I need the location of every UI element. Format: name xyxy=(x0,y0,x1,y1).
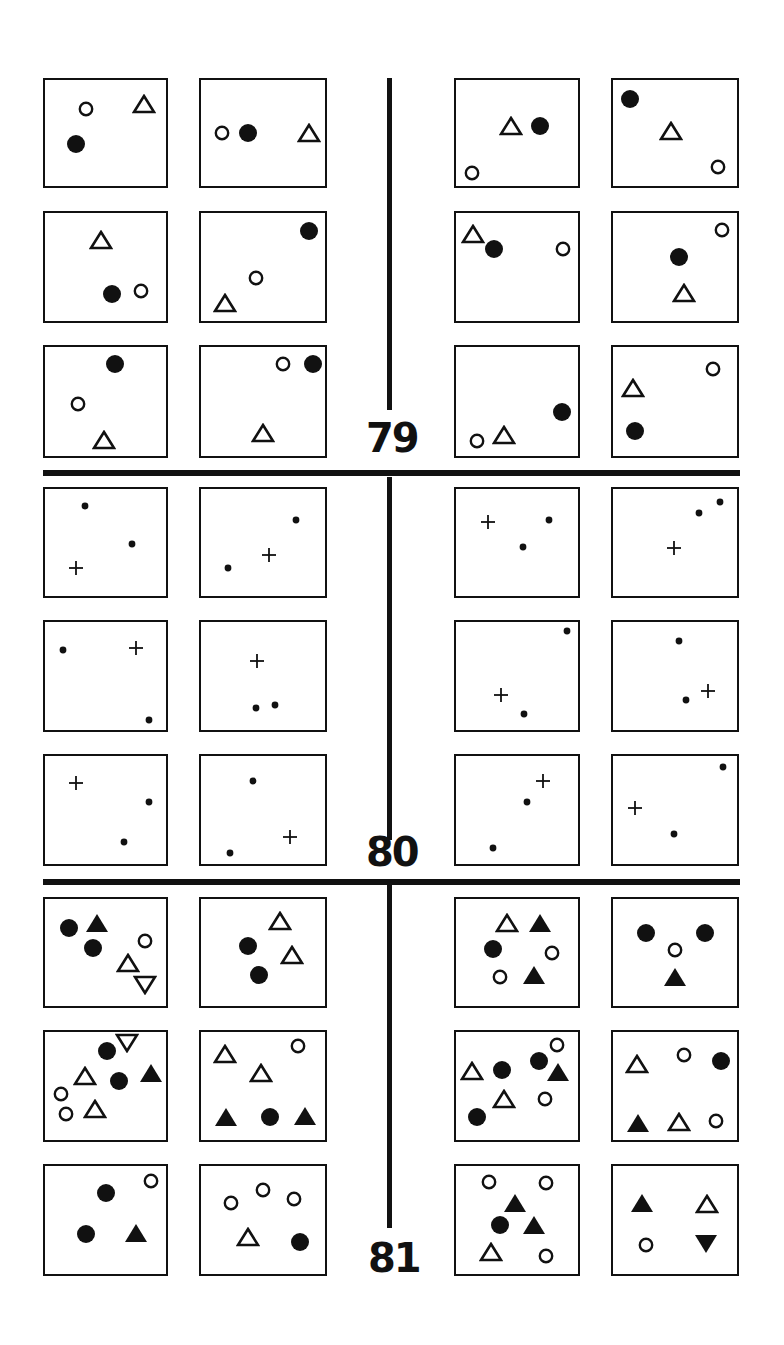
example-panel-right xyxy=(454,487,580,598)
open-circle-icon xyxy=(214,125,230,141)
dot-icon xyxy=(675,637,683,645)
open-circle-icon xyxy=(286,1191,302,1207)
example-panel-right xyxy=(611,620,739,732)
open-triangle-icon xyxy=(492,1089,516,1109)
filled-circle-icon xyxy=(96,1183,116,1203)
open-triangle-icon xyxy=(89,230,113,250)
plus-icon xyxy=(128,640,144,656)
open-circle-icon xyxy=(78,101,94,117)
plus-icon xyxy=(700,683,716,699)
open-circle-icon xyxy=(549,1037,565,1053)
open-triangle-icon xyxy=(479,1242,503,1262)
open-circle-icon xyxy=(248,270,264,286)
example-panel-left xyxy=(43,1164,168,1276)
plus-icon xyxy=(68,775,84,791)
dot-icon xyxy=(292,516,300,524)
problem-number: 81 xyxy=(368,1238,420,1278)
dot-icon xyxy=(682,696,690,704)
dot-icon xyxy=(249,777,257,785)
example-panel-left xyxy=(199,345,327,458)
open-triangle-icon xyxy=(461,224,485,244)
example-panel-right xyxy=(611,897,739,1008)
filled-triangle-icon xyxy=(293,1106,317,1126)
plus-icon xyxy=(282,829,298,845)
example-panel-right xyxy=(454,345,580,458)
plus-icon xyxy=(249,653,265,669)
filled-inverted-triangle-icon xyxy=(694,1234,718,1254)
open-circle-icon xyxy=(133,283,149,299)
filled-circle-icon xyxy=(102,284,122,304)
open-circle-icon xyxy=(555,241,571,257)
example-panel-left xyxy=(199,897,327,1008)
filled-circle-icon xyxy=(238,123,258,143)
open-circle-icon xyxy=(710,159,726,175)
open-circle-icon xyxy=(492,969,508,985)
open-circle-icon xyxy=(53,1086,69,1102)
open-triangle-icon xyxy=(659,121,683,141)
dot-icon xyxy=(59,646,67,654)
open-triangle-icon xyxy=(268,911,292,931)
dot-icon xyxy=(563,627,571,635)
open-triangle-icon xyxy=(499,116,523,136)
filled-circle-icon xyxy=(492,1060,512,1080)
open-circle-icon xyxy=(58,1106,74,1122)
example-panel-left xyxy=(43,754,168,866)
open-inverted-triangle-icon xyxy=(133,975,157,995)
filled-triangle-icon xyxy=(522,965,546,985)
filled-circle-icon xyxy=(238,936,258,956)
dot-icon xyxy=(128,540,136,548)
open-circle-icon xyxy=(705,361,721,377)
filled-circle-icon xyxy=(484,239,504,259)
open-circle-icon xyxy=(275,356,291,372)
open-circle-icon xyxy=(70,396,86,412)
open-circle-icon xyxy=(255,1182,271,1198)
plus-icon xyxy=(535,773,551,789)
dot-icon xyxy=(695,509,703,517)
open-circle-icon xyxy=(469,433,485,449)
open-circle-icon xyxy=(667,942,683,958)
filled-circle-icon xyxy=(625,421,645,441)
example-panel-right xyxy=(611,345,739,458)
dot-icon xyxy=(716,498,724,506)
open-circle-icon xyxy=(538,1175,554,1191)
example-panel-right xyxy=(454,211,580,323)
open-triangle-icon xyxy=(132,94,156,114)
filled-circle-icon xyxy=(636,923,656,943)
open-triangle-icon xyxy=(249,1063,273,1083)
filled-triangle-icon xyxy=(503,1193,527,1213)
open-triangle-icon xyxy=(667,1112,691,1132)
filled-circle-icon xyxy=(290,1232,310,1252)
dot-icon xyxy=(224,564,232,572)
filled-triangle-icon xyxy=(522,1215,546,1235)
open-triangle-icon xyxy=(83,1099,107,1119)
open-circle-icon xyxy=(481,1174,497,1190)
open-circle-icon xyxy=(676,1047,692,1063)
filled-circle-icon xyxy=(76,1224,96,1244)
open-triangle-icon xyxy=(297,123,321,143)
filled-triangle-icon xyxy=(528,913,552,933)
open-triangle-icon xyxy=(672,283,696,303)
dot-icon xyxy=(519,543,527,551)
filled-circle-icon xyxy=(109,1071,129,1091)
filled-circle-icon xyxy=(695,923,715,943)
filled-circle-icon xyxy=(620,89,640,109)
example-panel-right xyxy=(611,78,739,188)
example-panel-left xyxy=(43,897,168,1008)
open-triangle-icon xyxy=(73,1066,97,1086)
example-panel-left xyxy=(43,211,168,323)
dot-icon xyxy=(81,502,89,510)
open-circle-icon xyxy=(638,1237,654,1253)
example-panel-right xyxy=(611,487,739,598)
dot-icon xyxy=(120,838,128,846)
example-panel-left xyxy=(43,487,168,598)
example-panel-left xyxy=(43,1030,168,1142)
open-triangle-icon xyxy=(236,1227,260,1247)
filled-circle-icon xyxy=(467,1107,487,1127)
open-circle-icon xyxy=(708,1113,724,1129)
dot-icon xyxy=(252,704,260,712)
dot-icon xyxy=(670,830,678,838)
problem-number: 80 xyxy=(366,832,418,872)
open-circle-icon xyxy=(143,1173,159,1189)
dot-icon xyxy=(719,763,727,771)
open-triangle-icon xyxy=(495,913,519,933)
